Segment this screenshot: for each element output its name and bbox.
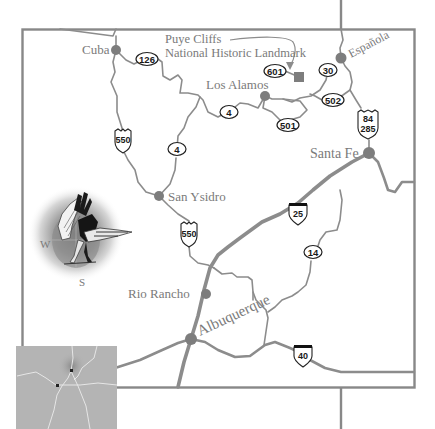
city-dot-espanola[interactable] [336,53,347,64]
svg-text:550: 550 [115,135,130,145]
label-landmark-line2: National Historic Landmark [165,46,307,60]
svg-text:84: 84 [363,114,373,124]
svg-text:501: 501 [280,120,297,131]
label-landmark-line1: Puye Cliffs [165,32,222,46]
city-dot-rio-rancho[interactable] [201,289,211,299]
svg-text:550: 550 [181,229,196,239]
label-espanola: Española [346,27,392,60]
city-labels: Cuba Los Alamos Española Santa Fe San Ys… [82,27,392,338]
shield-126[interactable]: 126 [136,53,158,66]
shield-us-84-285[interactable]: 84 285 [358,110,378,139]
svg-text:601: 601 [267,66,284,77]
label-los-alamos: Los Alamos [206,77,268,92]
svg-text:40: 40 [298,351,308,361]
city-dot-san-ysidro[interactable] [154,191,164,201]
label-cuba: Cuba [82,42,110,57]
interstate-shields: 25 40 [289,203,312,367]
shield-601[interactable]: 601 [264,65,286,78]
inset-marker-albuquerque [56,384,59,387]
svg-text:126: 126 [139,54,155,65]
label-rio-rancho: Rio Rancho [128,286,190,301]
city-dot-cuba[interactable] [111,45,121,55]
svg-text:4: 4 [174,144,180,155]
map-canvas: Cuba Los Alamos Española Santa Fe San Ys… [0,0,435,429]
shield-501[interactable]: 501 [277,119,299,132]
svg-text:30: 30 [323,65,334,76]
label-santa-fe: Santa Fe [310,146,359,161]
svg-text:14: 14 [308,247,319,258]
shield-502[interactable]: 502 [322,94,344,107]
city-dot-albuquerque[interactable] [185,333,197,345]
shield-4-west[interactable]: 4 [168,143,186,156]
svg-text:25: 25 [293,209,303,219]
label-san-ysidro: San Ysidro [168,189,226,204]
inset-marker-santa-fe [70,369,73,372]
shield-i-25[interactable]: 25 [289,203,307,225]
city-dot-santa-fe[interactable] [363,147,375,159]
svg-text:285: 285 [360,124,375,134]
shield-us-550-south[interactable]: 550 [181,222,197,247]
landmark-marker[interactable] [294,72,304,82]
inset-locator-map[interactable] [16,346,117,429]
shield-14[interactable]: 14 [304,246,322,259]
major-roads [115,153,414,387]
city-dot-los-alamos[interactable] [260,91,270,101]
shield-30[interactable]: 30 [319,64,337,77]
shield-us-550-north[interactable]: 550 [115,129,131,153]
compass-south-label: S [79,276,85,288]
shield-4-east[interactable]: 4 [220,106,238,119]
svg-text:4: 4 [226,107,232,118]
shield-i-40[interactable]: 40 [294,345,312,367]
svg-text:502: 502 [325,95,341,106]
compass-west-label: W [40,238,51,250]
compass-rose: W S [28,186,132,288]
